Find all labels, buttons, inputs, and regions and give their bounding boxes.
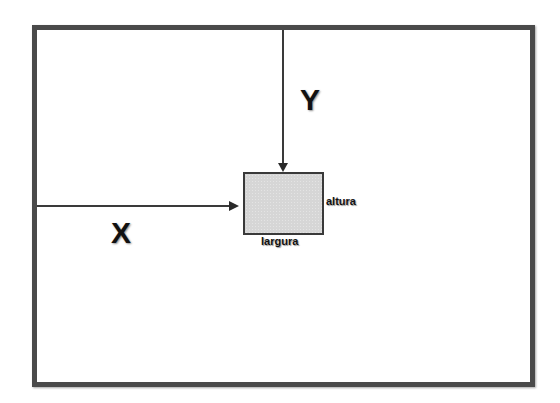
y-offset-arrow-line xyxy=(282,30,284,165)
x-axis-label: X xyxy=(111,218,131,248)
x-offset-arrow-line xyxy=(37,205,230,207)
arrow-down-icon xyxy=(278,163,288,172)
y-axis-label: Y xyxy=(300,85,320,115)
width-label: largura xyxy=(261,236,298,247)
arrow-right-icon xyxy=(229,201,239,211)
height-label: altura xyxy=(326,196,356,207)
positioned-box xyxy=(243,172,324,235)
